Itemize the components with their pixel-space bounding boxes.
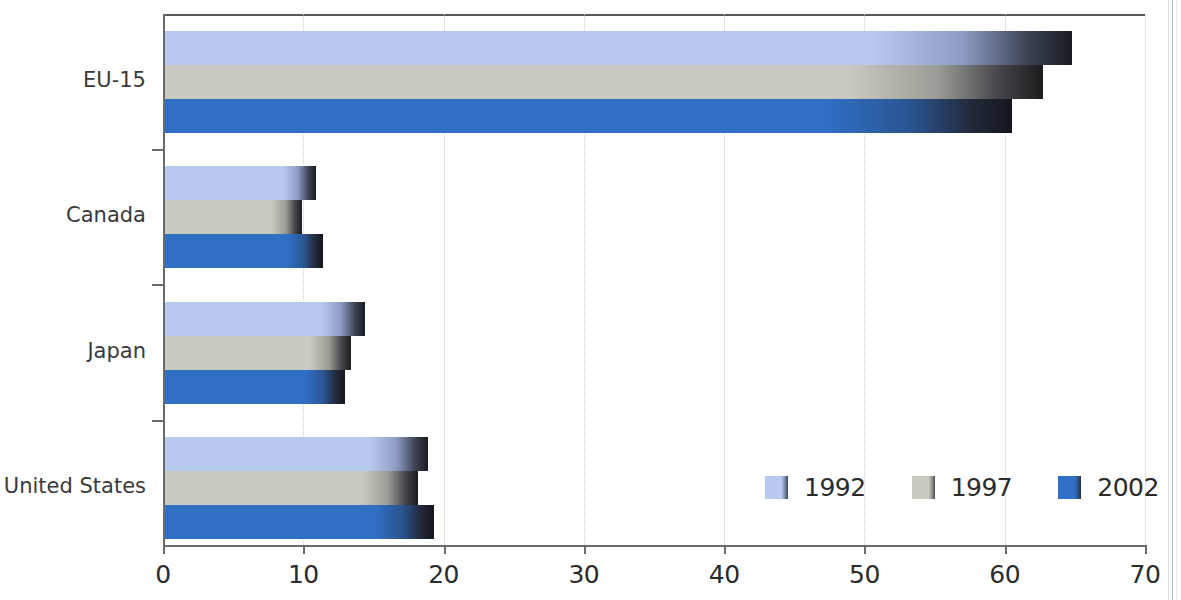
category-label-japan: Japan	[0, 339, 146, 363]
bar-fill	[165, 471, 418, 505]
legend-swatch-2002	[1058, 476, 1081, 499]
legend-item-1997: 1997	[912, 473, 1059, 502]
bar-fill	[165, 65, 1043, 99]
x-axis-tick-label: 20	[404, 560, 484, 589]
bar-fill	[165, 336, 351, 370]
bar-fill	[165, 99, 1012, 133]
legend-swatch-1997	[912, 476, 935, 499]
bar-japan-1992	[165, 302, 365, 336]
x-axis-tick-label: 30	[544, 560, 624, 589]
category-label-eu-15: EU-15	[0, 68, 146, 92]
x-axis-tick	[724, 545, 726, 554]
y-axis-tick	[152, 420, 163, 422]
bar-fill	[165, 234, 323, 268]
bar-fill	[165, 31, 1072, 65]
x-axis-tick-label: 40	[684, 560, 764, 589]
bar-japan-1997	[165, 336, 351, 370]
legend-label-2002: 2002	[1097, 473, 1159, 502]
bar-eu-15-1997	[165, 65, 1043, 99]
y-axis-tick	[152, 284, 163, 286]
bar-fill	[165, 437, 428, 471]
x-axis-tick	[444, 545, 446, 554]
x-axis-tick	[303, 545, 305, 554]
bar-eu-15-1992	[165, 31, 1072, 65]
bar-canada-2002	[165, 234, 323, 268]
legend-swatch-1992	[765, 476, 788, 499]
page-edge-line	[1172, 0, 1173, 600]
gridline	[1145, 14, 1146, 545]
bar-japan-2002	[165, 370, 345, 404]
bar-canada-1997	[165, 200, 302, 234]
bar-canada-1992	[165, 166, 316, 200]
page-edge-line	[1168, 0, 1169, 600]
bar-fill	[165, 505, 434, 539]
chart-legend: 199219972002	[765, 470, 1159, 504]
bar-fill	[165, 200, 302, 234]
legend-item-2002: 2002	[1058, 473, 1159, 502]
x-axis-tick-label: 10	[263, 560, 343, 589]
x-axis-tick	[864, 545, 866, 554]
bar-united-states-1997	[165, 471, 418, 505]
x-axis-tick	[163, 545, 165, 554]
x-axis-tick	[584, 545, 586, 554]
bar-united-states-2002	[165, 505, 434, 539]
category-label-united-states: United States	[0, 474, 146, 498]
legend-item-1992: 1992	[765, 473, 912, 502]
x-axis-tick-label: 60	[965, 560, 1045, 589]
plot-top-border	[163, 14, 1145, 16]
legend-label-1992: 1992	[804, 473, 866, 502]
bar-fill	[165, 166, 316, 200]
page-edge-line	[1176, 0, 1177, 600]
bar-united-states-1992	[165, 437, 428, 471]
bar-eu-15-2002	[165, 99, 1012, 133]
bar-fill	[165, 370, 345, 404]
category-label-canada: Canada	[0, 203, 146, 227]
y-axis-tick	[152, 149, 163, 151]
x-axis-tick-label: 70	[1105, 560, 1181, 589]
legend-label-1997: 1997	[951, 473, 1013, 502]
bar-chart: 010203040506070 EU-15CanadaJapanUnited S…	[0, 0, 1181, 600]
x-axis-tick-label: 50	[824, 560, 904, 589]
bar-fill	[165, 302, 365, 336]
x-axis-tick	[1145, 545, 1147, 554]
x-axis-line	[163, 545, 1145, 547]
x-axis-tick	[1005, 545, 1007, 554]
x-axis-tick-label: 0	[123, 560, 203, 589]
